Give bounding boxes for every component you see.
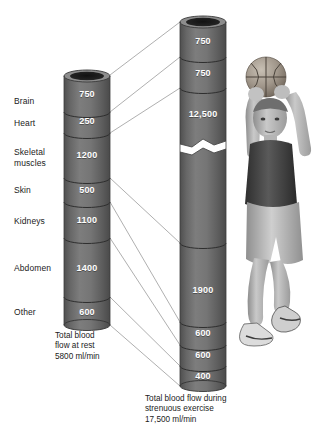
exercise-value-abdomen: 600 <box>180 350 226 360</box>
rest-value-skeletal-muscles: 1200 <box>64 150 110 160</box>
left-leg <box>248 258 269 326</box>
rest-column-caption: Total blood flow at rest 5800 ml/min <box>55 331 100 362</box>
exercise-value-skeletal-muscles: 12,500 <box>178 109 228 119</box>
left-shoe <box>240 323 274 346</box>
organ-label-kidneys: Kidneys <box>14 216 45 227</box>
exercise-cylinder-opening <box>186 18 220 27</box>
exercise-value-heart: 750 <box>180 68 226 78</box>
left-hand <box>248 87 264 101</box>
figure-root: Brain Heart Skeletal muscles Skin Kidney… <box>0 0 331 438</box>
rest-value-heart: 250 <box>64 116 110 126</box>
organ-label-other: Other <box>14 307 36 318</box>
rest-value-abdomen: 1400 <box>64 263 110 273</box>
basketball-player-photo <box>228 52 331 357</box>
jersey <box>245 140 297 209</box>
shorts <box>246 202 303 264</box>
exercise-value-other: 400 <box>180 371 226 381</box>
organ-label-brain: Brain <box>14 96 34 107</box>
organ-label-abdomen: Abdomen <box>14 263 51 274</box>
rest-value-kidneys: 1100 <box>64 215 110 225</box>
exercise-column-caption: Total blood flow during strenuous exerci… <box>145 394 226 425</box>
exercise-value-brain: 750 <box>180 36 226 46</box>
rest-value-skin: 500 <box>64 185 110 195</box>
exercise-value-kidneys: 600 <box>180 328 226 338</box>
organ-label-skin: Skin <box>14 185 31 196</box>
rest-value-brain: 750 <box>64 89 110 99</box>
rest-value-other: 600 <box>64 307 110 317</box>
right-hand <box>274 85 290 99</box>
exercise-cylinder-bottom-cap <box>180 381 226 392</box>
exercise-value-skin: 1900 <box>180 285 226 295</box>
organ-label-skeletal-muscles: Skeletal muscles <box>14 147 46 168</box>
organ-label-heart: Heart <box>14 118 35 129</box>
right-eye <box>275 117 280 120</box>
left-eye <box>261 117 266 120</box>
right-leg <box>270 260 290 314</box>
